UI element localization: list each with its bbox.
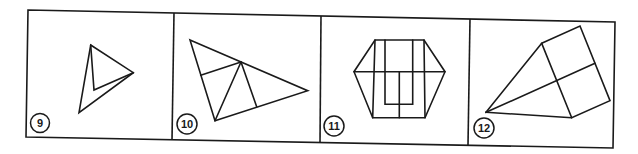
number-badge-11: 11	[324, 116, 344, 136]
panel-12: 12	[474, 26, 610, 138]
figure-strip: 9 10	[0, 0, 638, 154]
figure-strip-svg: 9 10	[0, 0, 638, 154]
figure-11	[354, 40, 445, 118]
panel-9: 9	[31, 45, 134, 133]
figure-12-apex-midline	[486, 63, 595, 112]
figure-10	[190, 40, 308, 121]
figure-11-left-vertical	[373, 40, 375, 118]
number-badge-11-label: 11	[328, 120, 340, 132]
panel-divider-2	[320, 16, 321, 143]
number-badge-12: 12	[474, 118, 494, 138]
panel-11: 11	[324, 40, 445, 136]
panel-divider-3	[468, 19, 470, 145]
panel-10: 10	[177, 40, 308, 134]
figure-12-apex-bottom-edge	[486, 112, 572, 117]
number-badge-10-label: 10	[181, 118, 193, 130]
figure-10-line-ed	[201, 62, 241, 75]
figure-12	[486, 26, 610, 118]
number-badge-10: 10	[177, 114, 197, 134]
figure-11-right-vertical	[424, 40, 425, 118]
figure-10-line-df	[241, 62, 257, 107]
figure-9-inner-fold	[91, 45, 134, 90]
figure-9	[79, 45, 133, 113]
figure-10-outer-triangle	[190, 40, 308, 121]
number-badge-9-label: 9	[37, 117, 43, 129]
number-badge-9: 9	[31, 114, 50, 133]
figure-9-outer-triangle	[79, 45, 133, 113]
number-badge-12-label: 12	[478, 122, 490, 134]
panel-divider-1	[172, 13, 174, 140]
figure-12-apex-top-edge	[486, 43, 542, 112]
figure-10-line-dc	[215, 62, 241, 121]
